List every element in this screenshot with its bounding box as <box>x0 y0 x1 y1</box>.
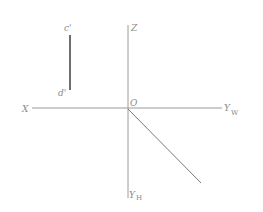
label-d-prime: d' <box>58 88 66 98</box>
label-origin: O <box>130 98 138 108</box>
label-x-axis: X <box>21 104 29 114</box>
projection-diagram: c' d' Z X O Y W Y H <box>0 0 263 212</box>
label-yh-axis: Y <box>129 190 136 200</box>
diagonal-45-line <box>128 109 201 183</box>
label-z-axis: Z <box>130 23 138 33</box>
label-yh-subscript: H <box>136 194 142 202</box>
label-c-prime: c' <box>64 23 72 33</box>
label-yw-subscript: W <box>231 109 239 117</box>
label-yw-axis: Y <box>224 103 231 113</box>
